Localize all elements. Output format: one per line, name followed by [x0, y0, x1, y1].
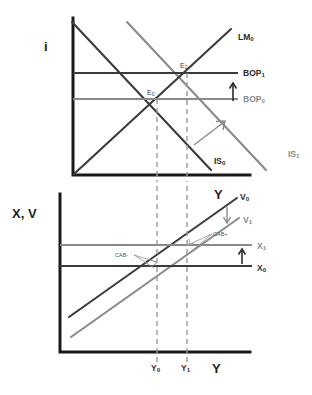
v1-label: V1	[243, 215, 253, 225]
y1-tick-label: Y1	[181, 363, 191, 373]
x1-label: X1	[257, 241, 267, 251]
v0-curve	[69, 198, 237, 317]
bottom-x-axis-label: Y	[212, 361, 221, 376]
bop1-label: BOP1	[243, 68, 265, 78]
lm0-label: LM0	[238, 32, 254, 42]
v-shift-arrow	[224, 207, 231, 223]
lm0-curve	[74, 29, 231, 174]
v0-label: V0	[240, 192, 250, 202]
cab-negative-label: CAB-	[115, 252, 128, 258]
bottom-top-y-label: Y	[214, 187, 223, 202]
cab-positive-leader	[189, 234, 212, 253]
top-panel: i LM0 BOP1 BOP0 IS0 IS1 E0 E2	[44, 18, 300, 182]
economics-diagram-figure: i LM0 BOP1 BOP0 IS0 IS1 E0 E2	[0, 0, 312, 395]
is-shift-arrow	[194, 121, 225, 145]
is0-label: IS0	[214, 156, 226, 166]
bottom-panel-axes	[60, 194, 250, 352]
x0-label: X0	[257, 263, 267, 273]
bottom-panel: X, V Y V0 V1 X1 X0 CAB- CAB+ Y0 Y1 Y	[12, 186, 267, 376]
is0-curve	[72, 22, 211, 170]
x-shift-arrow	[239, 249, 246, 264]
y0-tick-label: Y0	[151, 363, 161, 373]
equilibrium-e0-label: E0	[147, 89, 155, 97]
equilibrium-e2-label: E2	[180, 62, 188, 70]
bottom-y-axis-label: X, V	[12, 206, 37, 221]
is1-label: IS1	[288, 149, 300, 159]
bop0-label: BOP0	[243, 94, 265, 104]
top-y-axis-label: i	[44, 39, 48, 54]
cab-positive-label: CAB+	[213, 231, 228, 237]
